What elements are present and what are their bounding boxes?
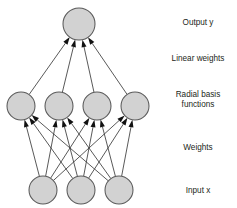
node-group [7,8,149,204]
node-hidden-node-2 [45,92,73,120]
node-output-node-1 [63,8,95,40]
arrowhead-input-node-1-to-hidden-node-2 [53,120,58,128]
node-hidden-node-3 [83,92,111,120]
label-output: Output y [183,18,215,27]
label-weights-line-1: Weights [183,143,212,152]
connection-input-node-1-to-hidden-node-3 [51,124,86,178]
label-linear-weights: Linear weights [172,54,225,63]
network-canvas: Output yLinear weightsRadial basisfuncti… [0,0,237,208]
connection-hidden-node-1-to-output-node-1 [29,43,65,94]
connection-input-node-2-to-hidden-node-1 [34,124,73,179]
node-input-node-3 [105,176,133,204]
arrowhead-input-node-1-to-hidden-node-1 [24,120,29,128]
arrowhead-group [24,37,133,128]
label-radial-basis-functions: Radial basisfunctions [176,90,221,110]
label-input: Input x [186,186,211,195]
connection-hidden-node-4-to-output-node-1 [92,43,127,94]
connection-input-node-3-to-hidden-node-2 [72,124,111,179]
arrowhead-input-node-2-to-hidden-node-3 [91,120,96,128]
label-output-line-1: Output y [183,18,215,27]
label-group: Output yLinear weightsRadial basisfuncti… [172,18,225,195]
arrowhead-hidden-node-1-to-output-node-1 [63,37,69,45]
connection-input-node-1-to-hidden-node-1 [26,127,39,177]
arrowhead-hidden-node-2-to-output-node-1 [71,40,76,48]
arrowhead-input-node-2-to-hidden-node-2 [62,120,67,128]
connection-hidden-node-3-to-output-node-1 [84,47,94,92]
rbf-network-diagram: Output yLinear weightsRadial basisfuncti… [0,0,237,208]
label-weights: Weights [183,143,212,152]
node-input-node-1 [29,176,57,204]
label-input-line-1: Input x [186,186,211,195]
connection-input-node-1-to-hidden-node-4 [53,121,119,181]
node-input-node-2 [67,176,95,204]
label-radial-basis-functions-line-2: functions [182,100,215,109]
connection-input-node-3-to-hidden-node-4 [122,127,131,176]
node-hidden-node-4 [121,92,149,120]
arrowhead-input-node-3-to-hidden-node-4 [129,120,134,128]
edge-group-input-to-hidden [26,120,131,181]
node-hidden-node-1 [7,92,35,120]
arrowhead-input-node-1-to-hidden-node-3 [83,118,89,126]
arrowhead-hidden-node-4-to-output-node-1 [88,37,94,45]
arrowhead-input-node-3-to-hidden-node-2 [67,117,73,125]
connection-hidden-node-2-to-output-node-1 [62,47,73,93]
arrowhead-hidden-node-3-to-output-node-1 [82,40,87,48]
label-linear-weights-line-1: Linear weights [172,54,225,63]
edge-group-hidden-to-output [29,43,127,94]
arrowhead-input-node-3-to-hidden-node-3 [100,120,105,128]
label-radial-basis-functions-line-1: Radial basis [176,90,221,99]
connection-input-node-3-to-hidden-node-1 [37,120,108,181]
